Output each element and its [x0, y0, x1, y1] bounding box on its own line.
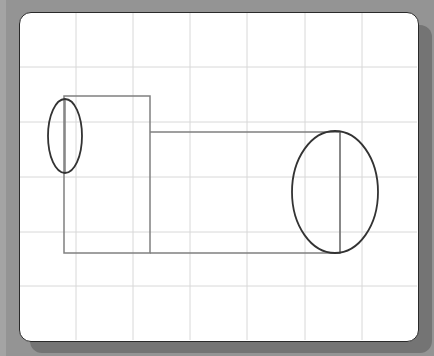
grid-lines: [20, 13, 417, 340]
diagram-canvas[interactable]: [0, 0, 434, 356]
rectangle-right[interactable]: [150, 132, 340, 253]
rectangle-left[interactable]: [64, 96, 150, 253]
